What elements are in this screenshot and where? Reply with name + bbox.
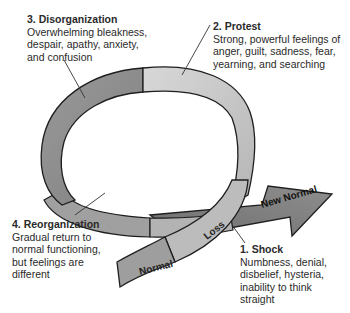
stage-desc-line: normal functioning, [12,243,101,256]
stage-title: 4. Reorganization [12,218,101,231]
stage-title: 3. Disorganization [27,13,147,26]
stage-desc-line: different [12,268,101,281]
disorganization-segment [41,68,143,205]
stage-desc-line: straight [240,293,327,306]
stage-desc-line: Strong, powerful feelings of [213,33,340,46]
stage-desc-line: and confusion [27,51,147,64]
stage-desc-line: disbelief, hysteria, [240,268,327,281]
stage-1-shock-label: 1. Shock Numbness, denial, disbelief, hy… [240,243,327,306]
stage-3-disorganization-label: 3. Disorganization Overwhelming bleaknes… [27,13,147,63]
stage-title: 2. Protest [213,20,340,33]
stage-desc-line: despair, apathy, anxiety, [27,38,147,51]
stage-desc-line: Overwhelming bleakness, [27,26,147,39]
stage-2-protest-label: 2. Protest Strong, powerful feelings of … [213,20,340,70]
leader-stage2 [182,25,210,75]
leader-stage1 [232,225,245,243]
stage-desc-line: but feelings are [12,256,101,269]
stage-4-reorganization-label: 4. Reorganization Gradual return to norm… [12,218,101,281]
stage-desc-line: yearning, and searching [213,58,340,71]
stage-desc-line: inability to think [240,281,327,294]
stage-desc-line: Gradual return to [12,231,101,244]
stage-desc-line: anger, guilt, sadness, fear, [213,45,340,58]
stage-desc-line: Numbness, denial, [240,256,327,269]
stage-title: 1. Shock [240,243,327,256]
